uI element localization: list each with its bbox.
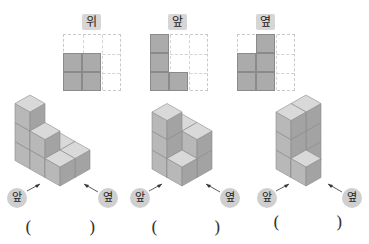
side-direction-label-2: 옆 — [220, 188, 240, 208]
answer-blank-2[interactable] — [165, 217, 210, 237]
stacked-cube-figures — [0, 0, 369, 244]
front-direction-label-2: 앞 — [130, 188, 150, 208]
front-direction-label-3: 앞 — [257, 188, 277, 208]
answer-open-paren-3: ( — [273, 212, 280, 232]
side-direction-label-3: 옆 — [342, 188, 362, 208]
cube-figure-3 — [276, 95, 321, 186]
answer-close-paren-3: ) — [336, 212, 343, 232]
side-direction-label-1: 옆 — [98, 188, 118, 208]
answer-open-paren-1: ( — [25, 217, 32, 237]
arrows — [27, 184, 342, 192]
answer-close-paren-1: ) — [89, 217, 96, 237]
answer-blank-1[interactable] — [40, 217, 85, 237]
answer-blank-3[interactable] — [287, 212, 332, 232]
answer-close-paren-2: ) — [214, 217, 221, 237]
front-direction-label-1: 앞 — [7, 188, 27, 208]
answer-open-paren-2: ( — [151, 217, 158, 237]
cube-figure-2 — [152, 104, 212, 187]
cube-figure-1 — [15, 95, 90, 186]
